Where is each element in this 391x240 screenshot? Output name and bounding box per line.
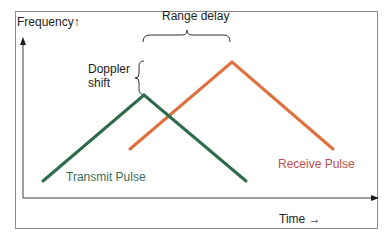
doppler-shift-brace bbox=[135, 61, 144, 95]
y-axis-label: Frequency↑ bbox=[17, 16, 80, 28]
receive-pulse-label: Receive Pulse bbox=[278, 158, 355, 170]
range-delay-label: Range delay bbox=[162, 10, 229, 22]
transmit-pulse-label: Transmit Pulse bbox=[66, 171, 146, 183]
radar-pulse-diagram bbox=[0, 0, 391, 240]
doppler-shift-label: Doppler shift bbox=[88, 62, 136, 90]
x-axis-label: Time → bbox=[279, 213, 321, 225]
y-axis-arrow-icon bbox=[20, 37, 26, 45]
range-delay-brace bbox=[143, 30, 230, 42]
outer-frame bbox=[16, 12, 378, 229]
receive-pulse-line bbox=[130, 62, 333, 149]
